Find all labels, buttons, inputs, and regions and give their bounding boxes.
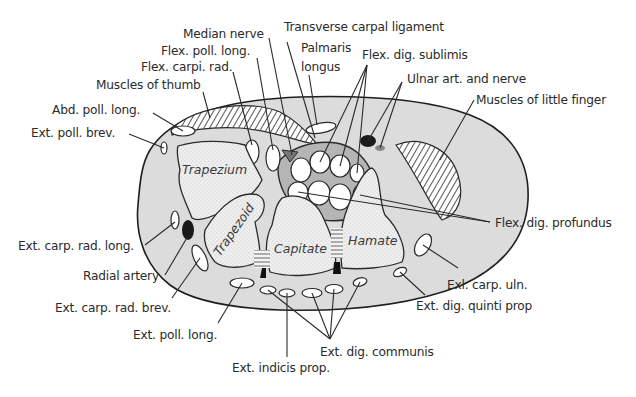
capitate-label: Capitate <box>274 241 327 256</box>
label-muscles-of-thumb: Muscles of thumb <box>96 78 201 92</box>
trapezium-label: Trapezium <box>182 162 247 177</box>
label-longus: longus <box>301 60 340 74</box>
label-ulnar-art-nerve: Ulnar art. and nerve <box>407 72 526 86</box>
ligament-trapezoid-capitate <box>254 250 270 268</box>
label-transverse-carpal-ligament: Transverse carpal ligament <box>283 20 444 34</box>
label-ext-poll-long: Ext. poll. long. <box>133 328 217 342</box>
ligament-capitate-hamate <box>331 228 343 258</box>
ligament-dark-wedge-2 <box>333 262 341 274</box>
label-ext-poll-brev: Ext. poll. brev. <box>31 126 115 140</box>
label-flex-dig-profundus: Flex. dig. profundus <box>495 216 612 230</box>
label-abd-poll-long: Abd. poll. long. <box>52 103 140 117</box>
label-palmaris: Palmaris <box>301 41 351 55</box>
label-ext-carp-rad-brev: Ext. carp. rad. brev. <box>55 301 171 315</box>
label-ext-carp-rad-long: Ext. carp. rad. long. <box>18 239 134 253</box>
hamate-label: Hamate <box>348 233 398 248</box>
label-exl-carp-uln: Exl. carp. uln. <box>447 278 527 292</box>
label-ext-indicis-prop: Ext. indicis prop. <box>232 361 330 375</box>
wrist-cross-section-diagram: Trapezium Trapezoid Capitate Hamate <box>0 0 636 397</box>
label-muscles-little-finger: Muscles of little finger <box>476 93 607 107</box>
label-radial-artery: Radial artery <box>83 269 159 283</box>
label-median-nerve: Median nerve <box>183 27 264 41</box>
label-flex-poll-long: Flex. poll. long. <box>161 44 250 58</box>
label-ext-dig-communis: Ext. dig. communis <box>320 345 434 359</box>
ext-carp-rad-long-tendon <box>171 211 179 229</box>
label-flex-dig-sublimis: Flex. dig. sublimis <box>362 48 468 62</box>
label-ext-dig-quinti-prop: Ext. dig. quinti prop <box>416 299 533 313</box>
label-flex-carpi-rad: Flex. carpi. rad. <box>141 60 232 74</box>
